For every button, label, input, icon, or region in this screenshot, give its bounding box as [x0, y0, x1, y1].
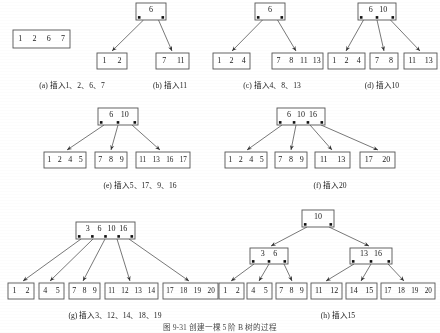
- key-value: 8: [389, 56, 393, 65]
- node-box: [97, 53, 127, 69]
- key-value: 15: [365, 286, 373, 295]
- edge-line-6: [326, 264, 354, 281]
- key-value: 2: [26, 286, 30, 295]
- key-value: 1: [332, 56, 336, 65]
- key-value: 9: [300, 155, 304, 164]
- key-value: 4: [68, 155, 72, 164]
- subfigures-layer: 1267(a) 插入1、2、6、7612711(b) 插入11612478111…: [8, 3, 437, 320]
- key-value: 16: [309, 110, 317, 119]
- edge-line-3: [391, 20, 421, 51]
- key-value: 11: [320, 155, 328, 164]
- subfigure-caption-e: (e) 插入5、17、9、16: [103, 180, 176, 190]
- key-value: 6: [287, 110, 291, 119]
- node-b-leaf-1: 12: [97, 53, 127, 69]
- key-value: 3: [261, 249, 265, 258]
- key-value: 2: [239, 155, 243, 164]
- key-value: 4: [43, 286, 47, 295]
- pointer-dot: [268, 260, 271, 263]
- subfigure-g: 36101612457891112131417181920(g) 插入3、12、…: [8, 222, 218, 320]
- edge-line-1: [247, 125, 282, 150]
- edge-line-4: [117, 239, 130, 281]
- key-value: 20: [382, 155, 390, 164]
- key-value: 1: [228, 155, 232, 164]
- edge-line-3: [231, 264, 254, 281]
- pointer-dot: [370, 260, 373, 263]
- edge-arrowhead-7: [361, 276, 365, 281]
- key-value: 18: [398, 287, 406, 295]
- node-h-internal-left: 36: [250, 248, 288, 264]
- key-value: 12: [121, 287, 129, 295]
- edge-line-8: [388, 264, 404, 281]
- key-value: 16: [119, 224, 127, 233]
- key-value: 16: [166, 156, 174, 164]
- pointer-dot: [360, 16, 363, 19]
- key-value: 6: [268, 5, 272, 14]
- node-keys: 6: [268, 5, 272, 14]
- node-c-leaf-2: 781113: [272, 53, 323, 69]
- key-value: 14: [350, 286, 358, 295]
- node-c-root: 6: [255, 3, 285, 20]
- edge-line-3: [132, 125, 160, 150]
- edge-line-2: [159, 20, 173, 51]
- edge-arrowhead-1: [23, 277, 28, 281]
- subfigure-caption-f: (f) 插入20: [313, 180, 346, 190]
- key-value: 9: [120, 155, 124, 164]
- edge-arrowhead-2: [292, 46, 296, 51]
- key-value: 5: [79, 155, 83, 164]
- pointer-dot: [321, 121, 324, 124]
- edge-line-5: [129, 239, 189, 281]
- key-value: 18: [180, 287, 188, 295]
- pointer-dot: [330, 223, 333, 226]
- key-value: 10: [121, 110, 129, 119]
- pointer-dot: [284, 260, 287, 263]
- key-value: 3: [86, 224, 90, 233]
- key-value: 5: [56, 286, 60, 295]
- edge-line-2: [329, 227, 369, 246]
- key-value: 1: [103, 56, 107, 65]
- node-f-leaf-3: 1113: [315, 152, 350, 168]
- pointer-dot: [117, 235, 120, 238]
- pointer-dot: [78, 235, 81, 238]
- subfigure-f: 61016124578911131720(f) 插入20: [225, 108, 395, 190]
- node-g-leaf-3: 789: [69, 283, 100, 299]
- key-value: 10: [297, 110, 305, 119]
- node-h-internal-right: 1316: [350, 248, 392, 264]
- node-b-root: 6: [136, 3, 166, 20]
- subfigure-caption-a: (a) 插入1、2、6、7: [39, 80, 105, 90]
- key-value: 6: [149, 5, 153, 14]
- key-value: 11: [177, 56, 185, 65]
- node-a-root: 1267: [13, 30, 70, 48]
- key-value: 6: [273, 249, 277, 258]
- key-value: 17: [166, 287, 174, 295]
- key-value: 19: [411, 287, 419, 295]
- node-f-leaf-4: 1720: [360, 152, 395, 168]
- node-h-leaf-6: 17181920: [381, 283, 435, 299]
- subfigure-b: 612711(b) 插入11: [97, 3, 189, 90]
- subfigure-caption-b: (b) 插入11: [153, 80, 187, 90]
- node-f-leaf-1: 1245: [225, 152, 267, 168]
- key-value: 2: [230, 56, 234, 65]
- key-value: 17: [180, 156, 188, 164]
- node-g-leaf-4: 11121314: [105, 283, 158, 299]
- key-value: 9: [93, 286, 97, 295]
- node-keys: 10: [314, 212, 322, 221]
- node-h-leaf-3: 789: [276, 283, 307, 299]
- node-keys: 789: [279, 286, 304, 295]
- node-e-leaf-1: 1245: [44, 152, 86, 168]
- pointer-dot: [392, 16, 395, 19]
- node-keys: 6: [149, 5, 153, 14]
- key-value: 4: [249, 155, 253, 164]
- key-value: 10: [379, 5, 387, 14]
- pointer-dot: [252, 260, 255, 263]
- subfigure-a: 1267(a) 插入1、2、6、7: [13, 30, 105, 90]
- edge-line-2: [111, 125, 118, 150]
- pointer-dot: [304, 223, 307, 226]
- key-value: 20: [425, 287, 433, 295]
- key-value: 8: [289, 56, 293, 65]
- node-d-leaf-3: 1113: [404, 53, 437, 69]
- key-value: 20: [208, 287, 216, 295]
- key-value: 10: [314, 212, 322, 221]
- key-value: 8: [83, 286, 87, 295]
- pointer-dot: [307, 121, 310, 124]
- subfigure-caption-g: (g) 插入3、12、14、18、19: [69, 310, 162, 320]
